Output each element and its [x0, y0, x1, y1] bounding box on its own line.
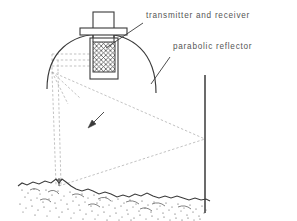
- feed-mesh-element: [93, 42, 115, 72]
- label-parabolic-reflector: parabolic reflector: [173, 43, 252, 51]
- label-transmitter-and-receiver: transmitter and receiver: [146, 12, 250, 20]
- transmitter-receiver-assembly: [80, 12, 127, 79]
- ground-stipple: [19, 188, 206, 220]
- focus-ray-a: [52, 72, 80, 98]
- beam-edge-upper: [52, 72, 205, 139]
- figure-canvas: transmitter and receiver parabolic refle…: [0, 0, 297, 221]
- ground-contours: [30, 189, 191, 211]
- leader-line-reflector: [151, 57, 170, 84]
- beam-edge-lower: [59, 139, 205, 186]
- direction-arrow: [88, 112, 104, 128]
- parabolic-reflector-diagram: [0, 0, 297, 221]
- mounting-flange: [80, 28, 127, 35]
- ray-paths: [52, 54, 205, 186]
- nadir-beam-left: [52, 72, 56, 185]
- rough-ground-terrain: [18, 179, 210, 221]
- ground-outline: [18, 179, 210, 201]
- focus-ray-b: [52, 72, 68, 104]
